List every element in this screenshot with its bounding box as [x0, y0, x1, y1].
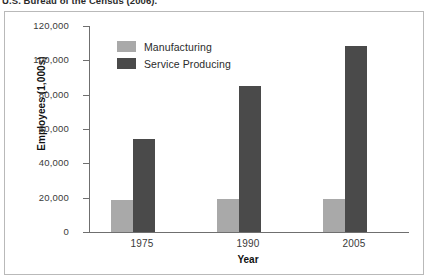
y-axis-tick-label: 80,000 [39, 89, 69, 100]
legend-label: Manufacturing [144, 41, 212, 53]
x-axis-line [89, 232, 409, 233]
figure-frame: Employees (1,000s) 020,00040,00060,00080… [4, 11, 424, 275]
legend-item-service-producing: Service Producing [117, 55, 231, 72]
bar-service-producing-1990 [239, 86, 261, 232]
y-axis-tick-label: 20,000 [39, 192, 69, 203]
x-axis-tick-label: 2005 [301, 238, 407, 249]
bar-manufacturing-2005 [323, 199, 345, 232]
y-axis-tick-label: 120,000 [33, 20, 69, 31]
bar-manufacturing-1990 [217, 199, 239, 232]
figure-caption-sliver: U.S. Bureau of the Census (2006). [0, 0, 428, 9]
y-axis-tick-label: 60,000 [39, 123, 69, 134]
x-axis-title: Year [89, 254, 407, 265]
legend-item-manufacturing: Manufacturing [117, 38, 231, 55]
y-axis-tick-label: 100,000 [33, 54, 69, 65]
bar-group [301, 26, 407, 232]
x-axis-tick-label: 1990 [195, 238, 301, 249]
x-axis-tick-label: 1975 [89, 238, 195, 249]
y-axis-tick-label: 40,000 [39, 157, 69, 168]
bar-service-producing-2005 [345, 46, 367, 232]
figure-caption-text: U.S. Bureau of the Census (2006). [2, 0, 157, 6]
chart-legend: ManufacturingService Producing [117, 38, 231, 72]
legend-swatch-icon [117, 41, 136, 52]
y-axis-tick-label: 0 [64, 226, 69, 237]
bar-service-producing-1975 [133, 139, 155, 232]
legend-label: Service Producing [144, 58, 231, 70]
bar-manufacturing-1975 [111, 200, 133, 232]
y-axis-tick [83, 232, 89, 233]
legend-swatch-icon [117, 58, 136, 69]
